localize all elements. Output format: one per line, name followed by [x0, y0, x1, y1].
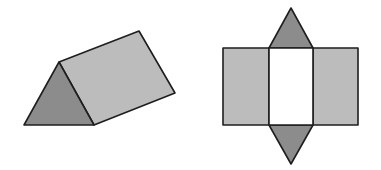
prism-net	[223, 8, 358, 164]
net-bottom-triangle	[269, 125, 313, 164]
net-right-rectangle	[313, 48, 358, 125]
net-middle-rectangle	[269, 48, 313, 125]
net-top-triangle	[269, 8, 313, 48]
net-left-rectangle	[223, 48, 269, 125]
prism-3d	[24, 31, 175, 125]
figure-canvas	[0, 0, 381, 170]
